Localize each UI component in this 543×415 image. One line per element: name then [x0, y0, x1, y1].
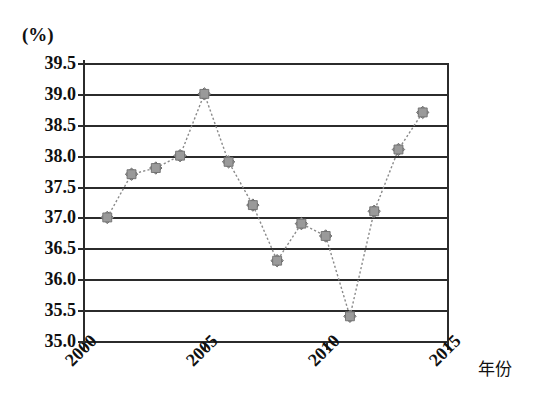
y-axis-tick-mark [78, 187, 87, 189]
grid-line-horizontal [83, 310, 447, 312]
grid-line-horizontal [83, 156, 447, 158]
grid-line-horizontal [83, 187, 447, 189]
y-axis-tick-label: 39.5 [45, 53, 77, 74]
y-axis-tick-label: 36.5 [45, 238, 77, 259]
x-axis-title: 年份 [478, 355, 512, 380]
grid-line-horizontal [83, 217, 447, 219]
y-axis-tick-mark [78, 341, 87, 343]
grid-line-horizontal [83, 279, 447, 281]
y-axis-tick-mark [78, 63, 87, 65]
y-axis-tick-label: 38.0 [45, 145, 77, 166]
y-axis-tick-label: 39.0 [45, 83, 77, 104]
y-axis-tick-label: 38.5 [45, 114, 77, 135]
line-chart: (%) 35.035.536.036.537.037.538.038.539.0… [0, 0, 543, 415]
y-axis-tick-mark [78, 94, 87, 96]
y-axis-tick-mark [78, 248, 87, 250]
plot-right-border [447, 63, 449, 344]
y-axis-tick-mark [78, 125, 87, 127]
y-axis-line [83, 60, 85, 344]
grid-line-horizontal [83, 125, 447, 127]
grid-line-horizontal [83, 248, 447, 250]
y-axis-tick-label: 37.0 [45, 207, 77, 228]
y-axis-tick-mark [78, 217, 87, 219]
y-axis-tick-label: 35.5 [45, 300, 77, 321]
grid-line-horizontal [83, 341, 447, 343]
plot-area [83, 63, 447, 341]
y-axis-tick-label: 37.5 [45, 176, 77, 197]
y-axis-tick-mark [78, 279, 87, 281]
grid-line-horizontal [83, 94, 447, 96]
y-axis-tick-label: 36.0 [45, 269, 77, 290]
y-axis-tick-mark [78, 156, 87, 158]
grid-line-horizontal [83, 63, 447, 65]
y-axis-tick-mark [78, 310, 87, 312]
